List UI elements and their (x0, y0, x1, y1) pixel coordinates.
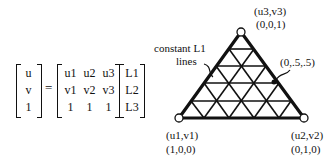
bottom-right-coord: (u2,v2) (291, 129, 323, 142)
constant-l1-label: constant L1 (154, 42, 206, 55)
lines-label: lines (176, 55, 197, 68)
bottom-left-bary: (1,0,0) (166, 143, 195, 156)
bottom-left-coord: (u1,v1) (166, 129, 198, 142)
top-vertex-coord: (u3,v3) (254, 5, 286, 18)
bottom-right-bary: (0,1,0) (291, 143, 320, 156)
midpoint-label: (0,.5,.5) (280, 56, 315, 69)
top-vertex-bary: (0,0,1) (256, 18, 285, 31)
